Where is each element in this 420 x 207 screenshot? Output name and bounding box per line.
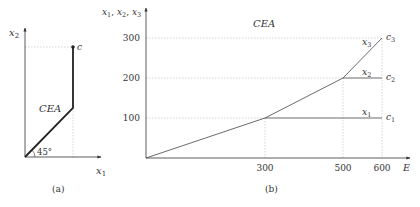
y-tick-200: 200 [123, 73, 140, 83]
label-c3: c3 [386, 32, 395, 44]
label-x1: x1 [362, 106, 372, 119]
label-c1: c1 [386, 112, 395, 124]
label-c2: c2 [386, 72, 395, 84]
x-tick-300: 300 [256, 163, 273, 173]
angle-label: 45° [37, 147, 52, 157]
y-axis-label: x2 [9, 27, 19, 40]
x-axis-label: E [402, 162, 410, 173]
label-x2: x2 [362, 66, 372, 79]
figure: x2 x1 c CEA 45° (a) 300 200 100 300 500 … [0, 0, 420, 207]
panel-a: x2 x1 c CEA 45° (a) [9, 27, 106, 194]
panel-b: 300 200 100 300 500 600 E x1, x2, x3 CEA… [102, 7, 410, 194]
y-tick-300: 300 [123, 33, 140, 43]
cea-path [25, 47, 73, 157]
x-axis-label: x1 [96, 165, 106, 178]
cea-label: CEA [39, 103, 61, 114]
angle-arc [32, 150, 35, 157]
cea-label: CEA [253, 18, 275, 29]
y-axis-label: x1, x2, x3 [102, 7, 141, 19]
series-x1 [146, 118, 382, 158]
label-x3: x3 [362, 36, 372, 49]
point-c [71, 45, 75, 49]
x-tick-600: 600 [373, 163, 390, 173]
x-tick-500: 500 [334, 163, 351, 173]
caption-b: (b) [265, 184, 278, 194]
y-tick-100: 100 [123, 113, 140, 123]
caption-a: (a) [52, 184, 64, 194]
point-c-label: c [77, 42, 82, 52]
